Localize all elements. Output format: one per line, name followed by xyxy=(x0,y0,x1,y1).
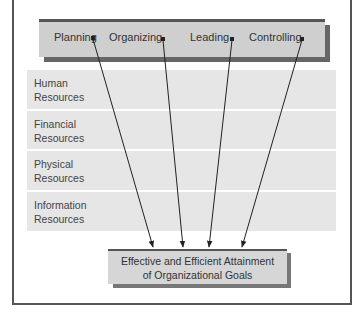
arrow-planning xyxy=(93,39,153,247)
arrows-layer xyxy=(0,0,363,321)
function-bullets xyxy=(91,36,304,41)
arrow-controlling xyxy=(242,40,302,247)
arrow-leading xyxy=(209,40,232,247)
arrow-organizing xyxy=(163,40,183,247)
